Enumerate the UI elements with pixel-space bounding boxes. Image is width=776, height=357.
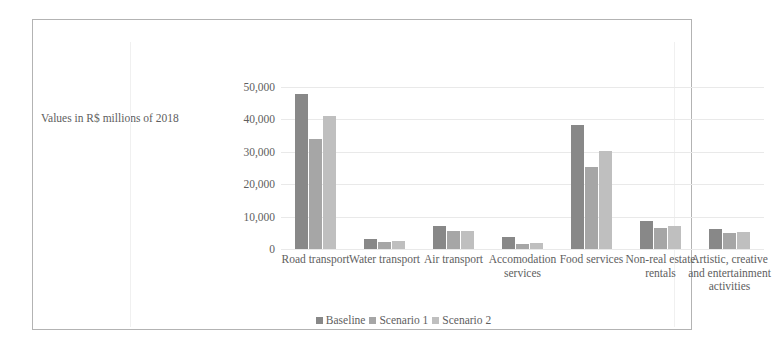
bar-group-bars xyxy=(626,87,695,249)
chart-legend: BaselineScenario 1Scenario 2 xyxy=(131,314,676,326)
legend-swatch-icon xyxy=(432,317,439,324)
bar-group xyxy=(626,87,695,249)
legend-item[interactable]: Baseline xyxy=(316,314,366,326)
bar-group xyxy=(695,87,764,249)
y-tick-label: 20,000 xyxy=(243,178,275,190)
bar-group xyxy=(350,87,419,249)
bar xyxy=(654,228,667,249)
bar xyxy=(447,231,460,249)
y-tick-label: 30,000 xyxy=(243,146,275,158)
bar xyxy=(640,221,653,249)
bar xyxy=(571,125,584,249)
legend-swatch-icon xyxy=(369,317,376,324)
bar xyxy=(392,241,405,249)
bar xyxy=(585,167,598,249)
bar xyxy=(323,116,336,249)
y-tick-label: 10,000 xyxy=(243,211,275,223)
plot-region: 010,00020,00030,00040,00050,000Road tran… xyxy=(281,87,764,249)
bar xyxy=(502,237,515,249)
bar xyxy=(530,243,543,249)
bar-group-bars xyxy=(281,87,350,249)
bar-group xyxy=(419,87,488,249)
bar xyxy=(599,151,612,249)
bar xyxy=(433,226,446,249)
legend-label: Scenario 1 xyxy=(379,314,428,326)
bar xyxy=(364,239,377,249)
y-tick-label: 50,000 xyxy=(243,81,275,93)
bar xyxy=(709,229,722,249)
legend-label: Scenario 2 xyxy=(442,314,491,326)
y-gridline xyxy=(281,249,764,250)
bar-group-bars xyxy=(695,87,764,249)
legend-item[interactable]: Scenario 2 xyxy=(432,314,491,326)
bar xyxy=(668,226,681,249)
bar-group-bars xyxy=(419,87,488,249)
bar-group-bars xyxy=(350,87,419,249)
figure-frame: Values in R$ millions of 2018 010,00020,… xyxy=(32,19,692,330)
y-tick-label: 40,000 xyxy=(243,113,275,125)
legend-item[interactable]: Scenario 1 xyxy=(369,314,428,326)
bar xyxy=(516,244,529,250)
bar-group-bars xyxy=(488,87,557,249)
x-category-label: Artistic, creative and entertainment act… xyxy=(684,253,776,294)
bar xyxy=(737,232,750,249)
chart-plot-area: 010,00020,00030,00040,00050,000Road tran… xyxy=(130,42,675,327)
bar-group xyxy=(557,87,626,249)
bar xyxy=(378,242,391,249)
legend-swatch-icon xyxy=(316,317,323,324)
bar-group xyxy=(281,87,350,249)
bar-group xyxy=(488,87,557,249)
legend-label: Baseline xyxy=(326,314,366,326)
bar xyxy=(309,139,322,249)
bar xyxy=(723,233,736,249)
bar xyxy=(295,94,308,249)
bar xyxy=(461,231,474,249)
bar-group-bars xyxy=(557,87,626,249)
